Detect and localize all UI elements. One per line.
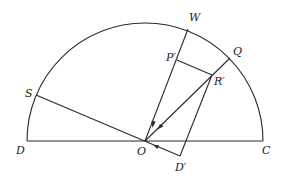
line-W-O (145, 29, 188, 141)
arrow-icon-Dprime-O (153, 145, 159, 149)
label-D-prime: D′ (174, 161, 187, 174)
label-P-prime: P′ (165, 51, 176, 64)
arrow-icon-W-O (152, 121, 156, 128)
line-Q-O (145, 58, 230, 141)
segment-Pprime-Rprime (177, 60, 212, 75)
segment-Rprime-Dprime (180, 75, 212, 156)
label-Q: Q (233, 45, 242, 58)
label-S: S (25, 87, 33, 100)
label-O: O (137, 145, 146, 158)
label-D: D (15, 144, 25, 157)
geometry-diagram: W Q P′ R′ S D O C D′ (0, 0, 285, 180)
semicircle-arc (27, 23, 263, 141)
arrow-icon-Q-O (158, 124, 164, 130)
label-W: W (189, 11, 202, 24)
label-R-prime: R′ (213, 75, 225, 88)
label-C: C (262, 144, 271, 157)
line-S-O-Dprime (36, 95, 180, 156)
